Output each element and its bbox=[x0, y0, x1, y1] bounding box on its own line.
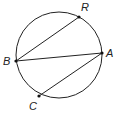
circle-diagram: R A B C bbox=[0, 0, 122, 115]
point-c-dot bbox=[37, 94, 40, 97]
label-c: C bbox=[29, 101, 37, 112]
label-b: B bbox=[3, 56, 10, 67]
point-b-dot bbox=[14, 59, 17, 62]
label-r: R bbox=[81, 2, 89, 13]
diagram-figure bbox=[0, 0, 122, 115]
circle bbox=[16, 12, 102, 98]
chord-br bbox=[16, 17, 79, 61]
label-a: A bbox=[106, 48, 113, 59]
chord-ba bbox=[16, 53, 102, 61]
chord-ac bbox=[39, 53, 102, 96]
point-r-dot bbox=[77, 15, 80, 18]
point-a-dot bbox=[100, 51, 103, 54]
